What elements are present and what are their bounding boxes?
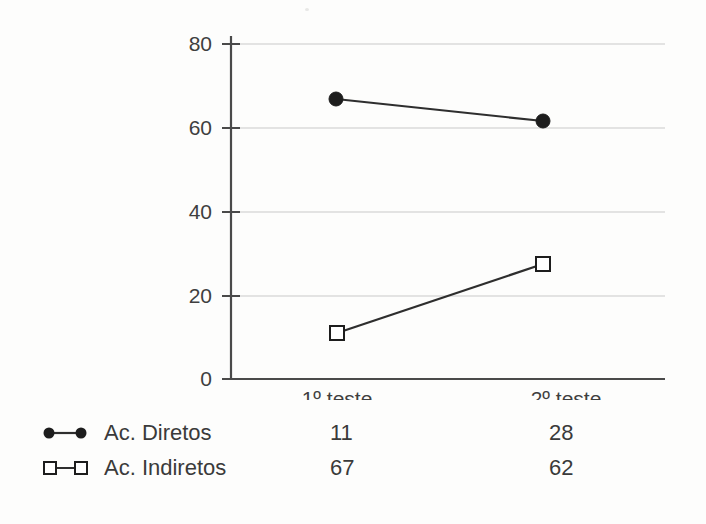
- ytick-label-60: 60: [189, 116, 212, 139]
- legend-value-indiretos-teste2: 62: [549, 450, 573, 485]
- legend-value-diretos-teste2: 28: [549, 415, 573, 450]
- plot-area: 80 60 40 20 0 1º teste 2º teste: [0, 0, 706, 400]
- legend-label-indiretos: Ac. Indiretos: [104, 450, 226, 485]
- legend-label-diretos: Ac. Diretos: [104, 415, 212, 450]
- filled-circle-line-icon: [38, 415, 96, 450]
- legend-value-indiretos-teste1: 67: [330, 450, 354, 485]
- gridlines: [231, 44, 665, 296]
- legend-value-diretos-teste1: 11: [330, 415, 353, 450]
- x-tick-labels: 1º teste 2º teste: [302, 387, 602, 400]
- ytick-label-80: 80: [189, 32, 212, 55]
- ytick-label-20: 20: [189, 284, 212, 307]
- legend-table: Ac. Diretos 11 28 Ac. Indiretos 67 62: [0, 415, 706, 510]
- ytick-label-40: 40: [189, 200, 212, 223]
- xtick-label-1: 1º teste: [302, 387, 373, 400]
- data-point-open-2: [536, 257, 550, 271]
- line-chart-svg: 80 60 40 20 0 1º teste 2º teste: [0, 0, 706, 400]
- y-tick-labels: 80 60 40 20 0: [189, 32, 212, 390]
- ytick-label-0: 0: [200, 367, 212, 390]
- chart-figure: 80 60 40 20 0 1º teste 2º teste: [0, 0, 706, 524]
- xtick-label-2: 2º teste: [531, 387, 602, 400]
- open-square-line-icon: [38, 450, 96, 485]
- legend-row-indiretos: Ac. Indiretos 67 62: [0, 450, 706, 485]
- series-open-square: [330, 257, 550, 340]
- axes: [231, 36, 665, 379]
- series-filled-circle-line: [336, 99, 543, 121]
- data-point-open-1: [330, 326, 344, 340]
- series-filled-circle: [329, 92, 550, 128]
- legend-row-diretos: Ac. Diretos 11 28: [0, 415, 706, 450]
- data-point-filled-1: [329, 92, 343, 106]
- data-point-filled-2: [536, 114, 550, 128]
- series-open-square-line: [337, 264, 543, 333]
